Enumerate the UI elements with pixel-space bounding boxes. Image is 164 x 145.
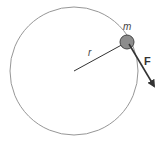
mass-ball (120, 35, 134, 49)
force-label: F (144, 55, 151, 67)
radius-label: r (88, 47, 92, 58)
radius-line (74, 42, 127, 71)
mass-label: m (123, 21, 131, 32)
circular-motion-diagram: m r F (0, 0, 164, 145)
